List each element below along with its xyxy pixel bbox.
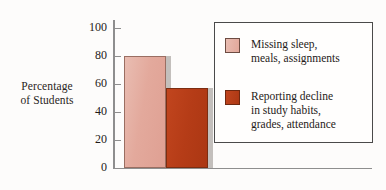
y-tick-label-40: 40	[95, 104, 107, 119]
legend-label-reporting-decline: Reporting decline in study habits, grade…	[251, 89, 336, 132]
bar-chart: Percentage of Students 100 80 60 40 20	[0, 0, 386, 190]
legend-label-line-2: in study habits,	[251, 103, 336, 117]
legend-swatch-icon-reporting-decline	[225, 90, 240, 105]
legend-label-line-1: Missing sleep,	[251, 37, 340, 51]
x-axis-line	[113, 168, 372, 169]
bar-missing-sleep-meals-assignments[interactable]	[124, 56, 166, 168]
y-tick-label-60: 60	[95, 76, 107, 91]
legend-item-reporting-decline[interactable]: Reporting decline in study habits, grade…	[225, 89, 336, 132]
y-axis-title-line-1: Percentage	[6, 80, 88, 94]
legend-swatch-box-2	[225, 90, 240, 105]
legend-swatch-icon-missing-sleep	[225, 38, 240, 53]
chart-legend: Missing sleep, meals, assignments Report…	[214, 22, 373, 143]
y-tick-label-100: 100	[89, 20, 107, 35]
tick-mark	[113, 84, 121, 85]
tick-mark	[113, 28, 121, 29]
tick-mark	[113, 140, 121, 141]
legend-label-missing-sleep: Missing sleep, meals, assignments	[251, 37, 340, 65]
legend-swatch-box-1	[225, 38, 240, 53]
legend-label-line-1: Reporting decline	[251, 89, 336, 103]
legend-item-missing-sleep[interactable]: Missing sleep, meals, assignments	[225, 37, 340, 65]
tick-mark	[113, 112, 121, 113]
y-axis-title: Percentage of Students	[6, 80, 88, 107]
y-tick-label-80: 80	[95, 48, 107, 63]
y-axis-line	[113, 20, 115, 169]
y-axis-title-line-2: of Students	[6, 94, 88, 108]
bar-reporting-decline-study-habits[interactable]	[166, 88, 208, 168]
legend-label-line-3: grades, attendance	[251, 117, 336, 131]
tick-mark	[113, 168, 121, 169]
y-tick-label-0: 0	[101, 160, 107, 175]
legend-label-line-2: meals, assignments	[251, 51, 340, 65]
y-tick-label-20: 20	[95, 132, 107, 147]
tick-mark	[113, 56, 121, 57]
